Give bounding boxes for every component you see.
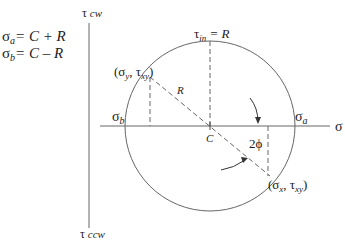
mohrs-circle-diagram: σa= C + R σb= C – R τcw τccw σ τin = R (… (0, 0, 345, 250)
sigma-axis-label: σ (335, 119, 343, 134)
angle-arrow-lower (221, 160, 245, 170)
tau-ccw-label: τccw (80, 227, 106, 241)
sigma-a-label: σa (295, 109, 308, 126)
center-label: C (206, 132, 214, 144)
sigma-b-label: σb (112, 109, 125, 126)
point-x-label: (σx, τxy) (268, 177, 307, 194)
angle-label: 2ϕ (249, 136, 263, 151)
radius-label: R (176, 84, 184, 96)
equation-sigma-a: σa= C + R (2, 28, 66, 46)
arrowhead-upper (255, 117, 261, 124)
point-y-label: (σy, τxy) (114, 64, 153, 81)
tau-cw-label: τcw (82, 6, 103, 20)
equation-sigma-b: σb= C – R (2, 45, 63, 63)
tau-in-label: τin = R (194, 26, 230, 43)
